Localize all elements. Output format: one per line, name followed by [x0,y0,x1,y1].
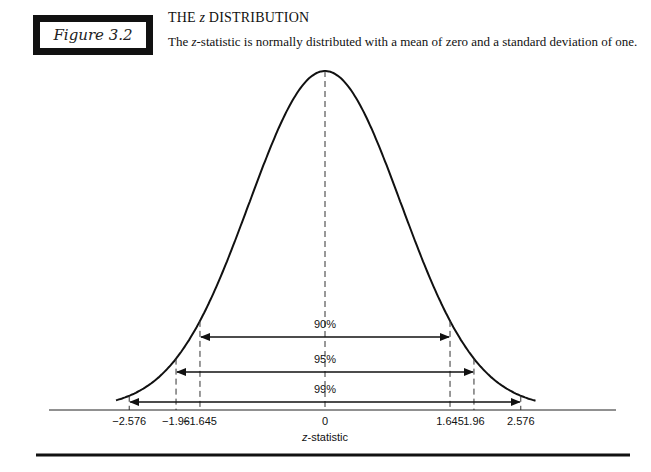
x-axis-label: z-statistic [301,431,348,443]
interval-label: 95% [314,353,336,365]
x-tick-label: 1.96 [463,415,484,427]
density-curve [116,71,536,401]
x-tick-label: 1.645 [436,415,464,427]
normal-distribution-chart: −2.576−1.96−1.64501.6451.962.57690%95%99… [0,0,651,472]
interval-label: 99% [314,383,336,395]
x-tick-label: 0 [322,415,328,427]
x-tick-label: 2.576 [507,415,535,427]
x-tick-label: −2.576 [112,415,146,427]
interval-label: 90% [314,318,336,330]
x-tick-label: −1.645 [183,415,217,427]
